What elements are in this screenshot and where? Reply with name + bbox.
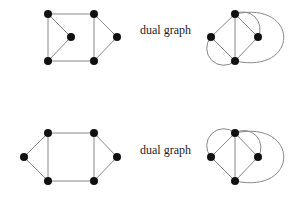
top-graph-node: [67, 33, 75, 41]
bottom-dual-edge: [235, 157, 258, 181]
bottom-dual-node: [231, 129, 239, 137]
bottom-dual-edge: [235, 133, 258, 157]
top-graph-node: [113, 33, 121, 41]
top-dual-arc-edge: [207, 37, 235, 65]
top-dual-edge: [235, 37, 258, 61]
bottom-graph-node: [44, 177, 52, 185]
bottom-dual-node: [231, 177, 239, 185]
bottom-graph-edge: [94, 133, 117, 157]
top-dual-node: [231, 10, 239, 18]
top-graph-edge: [48, 37, 71, 61]
bottom-graph-node: [113, 153, 121, 161]
bottom-graph-edge: [24, 157, 48, 181]
bottom-dual-edge: [211, 157, 235, 181]
top-graph-node: [44, 57, 52, 65]
bottom-graph-node: [90, 129, 98, 137]
bottom-dual-arc-edge: [235, 130, 261, 157]
top-dual-node: [231, 57, 239, 65]
top-dual-edge: [235, 14, 258, 37]
dual-graph-label-top: dual graph: [140, 23, 191, 38]
bottom-graph-edge: [24, 133, 48, 157]
bottom-graph-edge: [94, 157, 117, 181]
bottom-dual-arc-edge: [207, 129, 235, 157]
bottom-dual-edge: [211, 133, 235, 157]
top-dual-edge: [211, 14, 235, 37]
top-graph-edge: [48, 14, 71, 37]
top-dual-arc-edge: [235, 12, 260, 37]
bottom-dual-node: [207, 153, 215, 161]
top-graph-node: [44, 10, 52, 18]
top-dual-node: [254, 33, 262, 41]
top-dual-edge: [211, 37, 235, 61]
dual-graph-label-bottom: dual graph: [140, 143, 191, 158]
top-graph-edge: [94, 14, 117, 37]
bottom-graph-node: [44, 129, 52, 137]
top-graph-node: [90, 10, 98, 18]
top-graph-node: [90, 57, 98, 65]
diagram-canvas: dual graph dual graph: [0, 0, 299, 205]
bottom-graph-node: [90, 177, 98, 185]
bottom-graph-node: [20, 153, 28, 161]
bottom-dual-node: [254, 153, 262, 161]
top-graph-edge: [94, 37, 117, 61]
top-dual-node: [207, 33, 215, 41]
